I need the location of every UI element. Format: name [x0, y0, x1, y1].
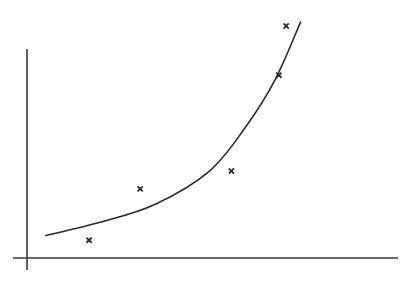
chart	[0, 0, 411, 283]
axes	[13, 49, 398, 270]
data-points	[86, 23, 288, 242]
x-marker	[138, 186, 143, 191]
fitted-curve	[45, 22, 301, 236]
x-marker	[86, 238, 91, 243]
x-marker	[229, 168, 234, 173]
x-marker	[284, 23, 289, 28]
